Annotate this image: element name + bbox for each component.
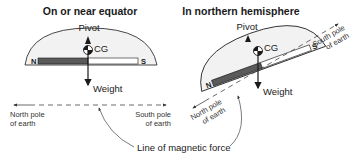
cg-label-right: CG xyxy=(264,42,278,53)
pivot-label-right: Pivot xyxy=(236,21,257,32)
south-pole-label-line2: of earth xyxy=(146,119,171,128)
pivot-label: Pivot xyxy=(78,22,99,33)
weight-label-right: Weight xyxy=(263,86,293,97)
leader-curve-left xyxy=(99,108,134,147)
line-of-magnetic-force-label: Line of magnetic force xyxy=(137,142,230,153)
leader-curve-right xyxy=(230,96,242,146)
north-pole-label-line2: of earth xyxy=(10,119,35,128)
weight-label: Weight xyxy=(93,83,123,94)
south-pole-label-line1: South pole xyxy=(135,110,171,119)
needle-n-label: N xyxy=(31,57,36,66)
cg-label: CG xyxy=(94,43,108,54)
needle-south-half xyxy=(88,58,138,64)
needle-s-label: S xyxy=(141,57,146,66)
left-panel-title: On or near equator xyxy=(43,5,138,17)
compass-dip-diagram: On or near equator N S Pivot CG Weight N… xyxy=(0,0,359,162)
north-pole-label-line1: North pole xyxy=(10,110,45,119)
right-panel-title: In northern hemisphere xyxy=(182,5,299,17)
right-panel-northern-hemisphere: In northern hemisphere N S Pivot CG Weig… xyxy=(182,5,351,146)
needle-north-half xyxy=(38,58,88,64)
left-panel-equator: On or near equator N S Pivot CG Weight N… xyxy=(10,5,171,147)
